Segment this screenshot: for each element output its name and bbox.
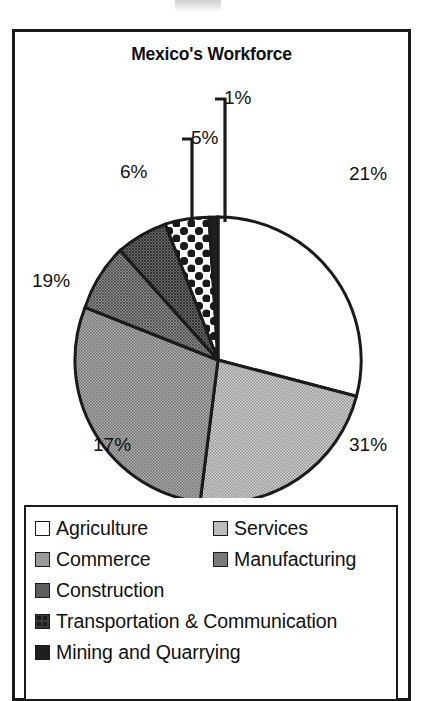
dark-gray-square-swatch-icon [213, 552, 228, 567]
black-square-swatch-icon [35, 645, 50, 660]
pie-chart-plot-area: 1% 5% 6% 19% 17% 31% 21% [15, 32, 408, 498]
legend-item-manufacturing: Manufacturing [213, 550, 356, 570]
chart-legend: Agriculture Services Commerce Manufactur… [24, 505, 398, 701]
pie-label-commerce: 17% [93, 434, 131, 456]
legend-label-transportation-communication: Transportation & Communication [56, 612, 337, 632]
legend-item-agriculture: Agriculture [35, 519, 213, 539]
pie-label-construction: 6% [120, 161, 147, 183]
leader-line-mining [215, 99, 225, 222]
pie-chart-graphic [15, 32, 408, 498]
darker-gray-square-swatch-icon [35, 583, 50, 598]
pie-label-manufacturing: 19% [32, 270, 70, 292]
legend-label-services: Services [234, 519, 308, 539]
legend-label-agriculture: Agriculture [56, 519, 148, 539]
pie-label-transportation: 5% [191, 127, 218, 149]
legend-item-construction: Construction [35, 581, 164, 601]
legend-row: Commerce Manufacturing [35, 544, 396, 575]
legend-item-services: Services [213, 519, 308, 539]
legend-label-commerce: Commerce [56, 550, 151, 570]
pie-label-agriculture: 21% [349, 163, 387, 185]
legend-row: Mining and Quarrying [35, 637, 396, 668]
legend-row: Agriculture Services [35, 513, 396, 544]
legend-item-mining-and-quarrying: Mining and Quarrying [35, 643, 240, 663]
legend-row: Construction [35, 575, 396, 606]
leader-line-transportation [182, 139, 192, 224]
medium-gray-square-swatch-icon [35, 552, 50, 567]
legend-label-mining-and-quarrying: Mining and Quarrying [56, 643, 240, 663]
dotted-pattern-square-swatch-icon [35, 614, 50, 629]
scan-artifact [175, 0, 221, 12]
chart-frame: Mexico's Workforce [12, 29, 411, 701]
white-square-swatch-icon [35, 521, 50, 536]
light-gray-square-swatch-icon [213, 521, 228, 536]
legend-row: Transportation & Communication [35, 606, 396, 637]
pie-label-services: 31% [349, 434, 387, 456]
legend-item-transportation-communication: Transportation & Communication [35, 612, 337, 632]
legend-label-construction: Construction [56, 581, 164, 601]
pie-label-mining: 1% [224, 87, 251, 109]
legend-item-commerce: Commerce [35, 550, 213, 570]
legend-label-manufacturing: Manufacturing [234, 550, 356, 570]
